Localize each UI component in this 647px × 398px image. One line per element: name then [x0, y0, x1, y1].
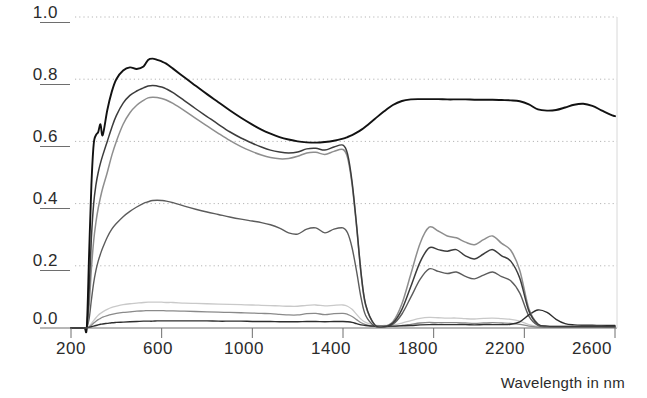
y-tick-rule-1 — [40, 22, 70, 23]
x-axis-title: Wavelength in nm — [501, 374, 625, 391]
series-line-curve-2-darkgray — [71, 85, 615, 329]
data-curves — [71, 59, 615, 333]
gridlines — [75, 17, 617, 266]
x-tick-label-1800: 1800 — [383, 340, 453, 357]
x-tick-label-1400: 1400 — [296, 340, 366, 357]
y-tick-label-1: 1.0 — [8, 4, 58, 21]
x-tick-label-200: 200 — [36, 340, 106, 357]
y-tick-rule-3 — [40, 146, 70, 147]
series-line-curve-1-black — [71, 59, 615, 333]
y-tick-label-4: 0.4 — [8, 190, 58, 207]
x-tick-label-2200: 2200 — [470, 340, 540, 357]
x-tick-label-600: 600 — [123, 340, 193, 357]
x-axis-ticks — [71, 328, 615, 338]
y-tick-label-2: 0.8 — [8, 66, 58, 83]
y-tick-label-6: 0.0 — [8, 310, 58, 327]
y-tick-rule-2 — [40, 84, 70, 85]
series-line-curve-4-gray-mid — [71, 200, 615, 328]
x-tick-label-2600: 2600 — [557, 340, 627, 357]
series-line-curve-3-midgray — [71, 97, 615, 329]
y-tick-rule-5 — [40, 270, 70, 271]
axis-lines — [40, 17, 617, 328]
y-tick-label-5: 0.2 — [8, 252, 58, 269]
y-tick-rule-4 — [40, 208, 70, 209]
series-line-curve-5-light — [71, 302, 615, 328]
spectral-reflectance-chart: 1.0 0.8 0.6 0.4 0.2 0.0 200 600 1000 140… — [0, 0, 647, 398]
x-tick-label-1000: 1000 — [209, 340, 279, 357]
y-tick-label-3: 0.6 — [8, 128, 58, 145]
